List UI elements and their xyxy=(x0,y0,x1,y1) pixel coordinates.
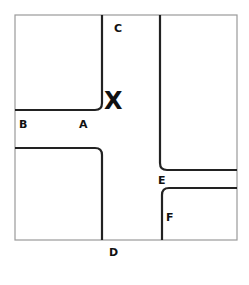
block-bottom-left-edge xyxy=(15,148,102,240)
label-f: F xyxy=(166,211,174,224)
intersection-diagram: C X B A E F D xyxy=(0,0,249,285)
label-e: E xyxy=(158,174,166,187)
x-marker: X xyxy=(104,87,123,115)
block-top-right-edge xyxy=(160,15,237,170)
label-a: A xyxy=(79,118,88,131)
label-c: C xyxy=(114,22,122,35)
label-d: D xyxy=(109,246,118,259)
block-top-left-edge xyxy=(15,15,102,110)
label-b: B xyxy=(19,118,27,131)
outer-frame xyxy=(15,15,237,240)
